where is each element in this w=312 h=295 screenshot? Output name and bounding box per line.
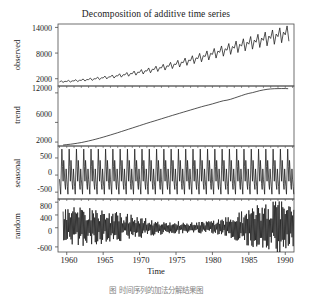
- series-trend: [63, 89, 288, 145]
- figure-caption: 图 时间序列的加法分解结果图: [0, 284, 312, 295]
- series-random: [63, 201, 294, 252]
- panel-frame-trend: [58, 86, 294, 146]
- panel-frame-observed: [58, 24, 294, 86]
- series-seasonal: [59, 149, 293, 194]
- series-observed: [59, 26, 288, 82]
